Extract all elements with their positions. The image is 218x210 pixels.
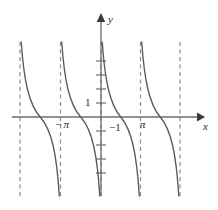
x-axis-label: x xyxy=(203,121,208,132)
plot-canvas xyxy=(0,0,218,210)
cotangent-graph-figure: y x 1 −1 −π π xyxy=(0,0,218,210)
y-axis-label: y xyxy=(108,14,113,25)
y-tick-label-negative-one: −1 xyxy=(109,122,121,133)
curve-branch xyxy=(102,42,139,196)
curve-branch xyxy=(142,42,179,196)
y-tick-label-one: 1 xyxy=(85,97,91,108)
x-tick-label-pi: π xyxy=(140,119,146,130)
curve-branch xyxy=(21,42,59,196)
y-axis-arrow-icon xyxy=(97,13,106,22)
x-tick-label-negative-pi: −π xyxy=(55,119,70,130)
